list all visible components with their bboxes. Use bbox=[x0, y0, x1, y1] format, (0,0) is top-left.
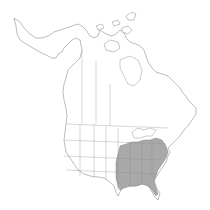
arctic-island bbox=[126, 12, 136, 20]
north-america-map bbox=[0, 0, 210, 210]
arctic-island bbox=[96, 24, 104, 30]
arctic-island bbox=[112, 20, 120, 26]
